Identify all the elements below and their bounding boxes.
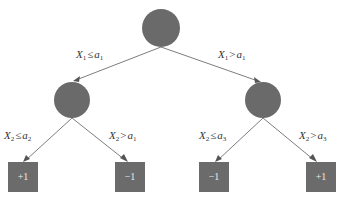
- edge-label-left-leaf1: X2≤a2: [4, 129, 31, 143]
- edge-label-root-left: X1≤a1: [76, 48, 103, 62]
- label-var-sub: 2: [116, 135, 120, 143]
- tree-graphics: [0, 0, 339, 204]
- label-var: X: [76, 48, 83, 60]
- edge-left-leaf1: [26, 118, 72, 160]
- leaf-label-1: +1: [8, 162, 38, 192]
- arrowhead-icon: [73, 76, 80, 82]
- arrowhead-icon: [215, 155, 222, 162]
- edge-label-right-leaf4: X2>a3: [299, 129, 326, 143]
- label-var: X: [299, 129, 306, 141]
- arrowhead-icon: [120, 154, 128, 162]
- leaf-label-2: −1: [115, 162, 145, 192]
- label-var-sub: 2: [306, 135, 310, 143]
- label-op: >: [310, 129, 316, 141]
- label-thr-sub: 1: [100, 54, 104, 62]
- edge-label-right-leaf3: X2≤a3: [199, 129, 226, 143]
- label-var-sub: 1: [225, 54, 229, 62]
- label-op: >: [229, 48, 235, 60]
- left-internal-node: [54, 82, 90, 118]
- arrowhead-icon: [309, 154, 317, 162]
- leaf-label-4: +1: [306, 162, 336, 192]
- arrowhead-icon: [254, 77, 261, 83]
- edge-label-root-right: X1>a1: [218, 48, 245, 62]
- right-internal-node: [245, 82, 281, 118]
- label-var: X: [109, 129, 116, 141]
- label-var: X: [4, 129, 11, 141]
- label-var: X: [218, 48, 225, 60]
- label-op: >: [120, 129, 126, 141]
- decision-tree-diagram: X1≤a1 X1>a1 X2≤a2 X2>a1 X2≤a3 X2>a3 +1 −…: [0, 0, 339, 204]
- root-node: [142, 9, 180, 47]
- label-op: ≤: [87, 48, 93, 60]
- label-op: ≤: [210, 129, 216, 141]
- leaf-label-3: −1: [199, 162, 229, 192]
- label-var-sub: 2: [206, 135, 210, 143]
- label-var: X: [199, 129, 206, 141]
- label-thr-sub: 2: [28, 135, 32, 143]
- label-thr-sub: 3: [223, 135, 227, 143]
- label-thr-sub: 1: [133, 135, 137, 143]
- label-thr-sub: 1: [242, 54, 246, 62]
- label-var-sub: 2: [11, 135, 15, 143]
- label-thr-sub: 3: [323, 135, 327, 143]
- edge-label-left-leaf2: X2>a1: [109, 129, 136, 143]
- label-op: ≤: [15, 129, 21, 141]
- arrowhead-icon: [23, 155, 30, 162]
- label-var-sub: 1: [83, 54, 87, 62]
